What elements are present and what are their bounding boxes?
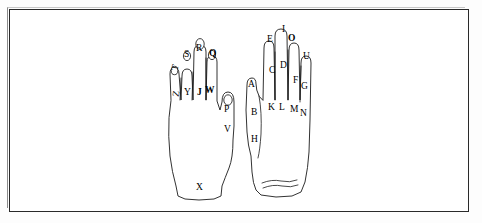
label-S: S <box>184 50 189 60</box>
left-hand-group <box>169 39 234 200</box>
label-W: W <box>205 86 215 96</box>
label-I: I <box>282 25 285 35</box>
label-H: H <box>251 135 258 145</box>
label-K: K <box>268 103 275 113</box>
label-U: U <box>303 52 310 62</box>
label-P: P <box>224 105 229 115</box>
label-G: G <box>301 82 308 92</box>
label-R: R <box>196 44 202 54</box>
label-J: J <box>197 88 202 98</box>
label-D: D <box>280 61 287 71</box>
label-O: O <box>288 34 295 44</box>
hand-drawing-canvas <box>0 0 482 223</box>
label-N: N <box>300 109 307 119</box>
label-M: M <box>290 105 298 115</box>
label-Y: Y <box>184 88 191 98</box>
label-E: E <box>267 35 273 45</box>
label-F: F <box>293 76 298 86</box>
label-A: A <box>248 80 255 90</box>
label-B: B <box>251 108 257 118</box>
label-L: L <box>279 103 285 113</box>
label-V: V <box>224 125 231 135</box>
label-C: C <box>269 66 275 76</box>
label-X: X <box>196 183 203 193</box>
label-Q: Q <box>209 49 216 59</box>
figure-root: T S R Q Z Y J W P V X E I O U C D F G A … <box>0 0 482 223</box>
